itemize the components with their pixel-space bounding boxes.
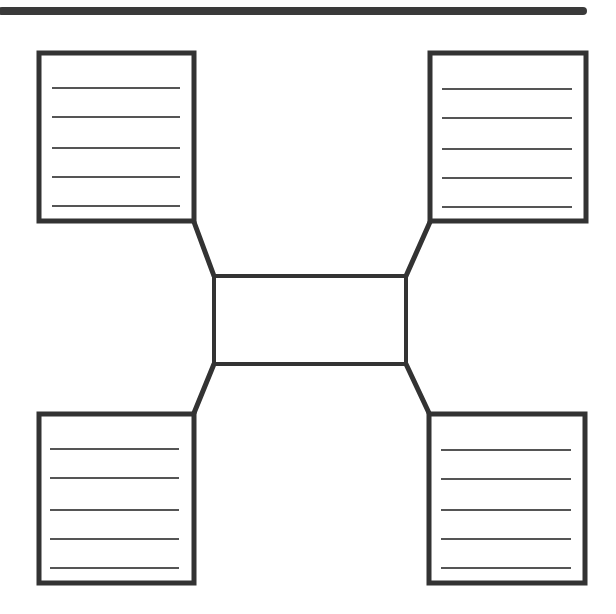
connector-bottom-left [194,364,214,413]
box-top-left[interactable] [39,53,194,221]
box-bottom-left[interactable] [39,414,194,583]
connector-top-right [406,222,430,276]
center-box[interactable] [214,276,406,364]
box-top-right[interactable] [430,53,586,221]
four-square-organizer [0,0,616,614]
connector-top-left [194,222,214,276]
box-bottom-right[interactable] [429,414,585,583]
connector-bottom-right [406,364,429,413]
